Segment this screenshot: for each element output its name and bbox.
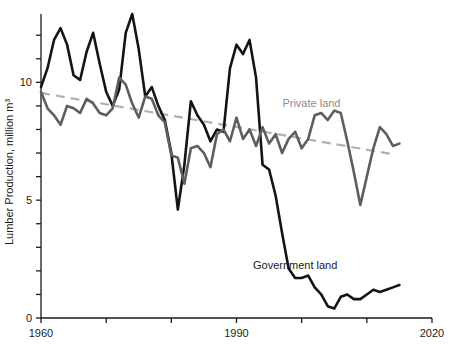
series-annotation-group: Private landGovernment land xyxy=(253,97,341,270)
x-tick-label-2020: 2020 xyxy=(420,327,444,339)
y-tick-label-0: 0 xyxy=(26,312,32,324)
annotation-private-land: Private land xyxy=(282,97,340,109)
y-tick-label-5: 5 xyxy=(26,194,32,206)
y-tick-label-10: 10 xyxy=(20,76,32,88)
series-line-government-land xyxy=(41,14,399,309)
series-line-private-land xyxy=(41,78,399,205)
data-series-group xyxy=(41,14,399,309)
y-axis-title: Lumber Production, million m³ xyxy=(3,99,15,245)
lumber-production-chart: 0510 196019902020 Private landGovernment… xyxy=(0,0,451,344)
chart-canvas: 0510 196019902020 Private landGovernment… xyxy=(0,0,451,344)
x-axis-ticks xyxy=(41,318,432,323)
x-axis-tick-labels: 196019902020 xyxy=(29,327,444,339)
x-tick-label-1990: 1990 xyxy=(224,327,248,339)
x-tick-label-1960: 1960 xyxy=(29,327,53,339)
y-axis-tick-labels: 0510 xyxy=(20,76,32,324)
annotation-government-land: Government land xyxy=(253,259,337,271)
y-axis-ticks xyxy=(36,35,41,318)
